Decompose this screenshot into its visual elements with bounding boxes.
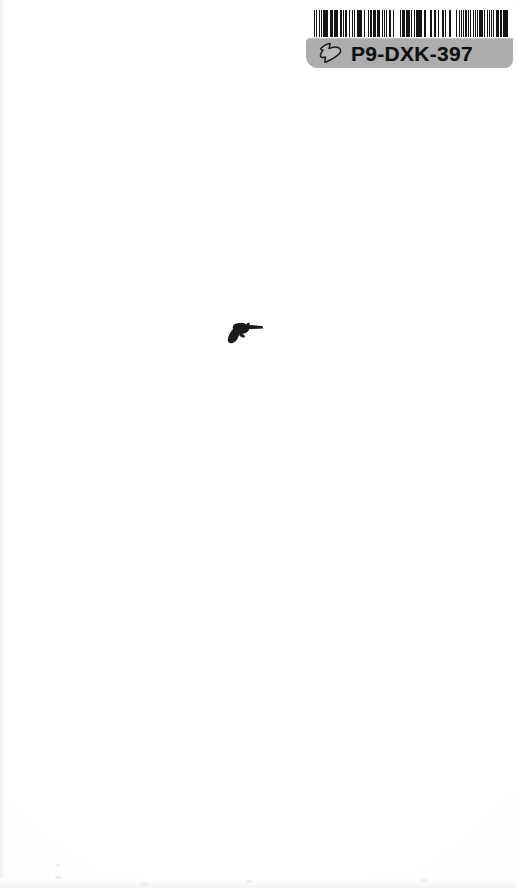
revolver-shape xyxy=(228,323,263,344)
revolver-silhouette xyxy=(222,316,266,352)
scan-speckle xyxy=(246,880,253,883)
scan-speckle xyxy=(56,864,60,867)
barcode-strip xyxy=(314,10,510,37)
label-plate: P9-DXK-397 xyxy=(306,38,513,68)
scanned-page: P9-DXK-397 xyxy=(0,0,516,888)
scan-speckle xyxy=(420,879,428,882)
paper-texture xyxy=(0,0,516,888)
pointing-hand-icon xyxy=(319,42,343,64)
scan-edge-left xyxy=(0,0,7,888)
barcode-label[interactable]: P9-DXK-397 xyxy=(306,10,513,68)
barcode-code-text: P9-DXK-397 xyxy=(351,43,473,64)
scan-speckle xyxy=(55,876,61,879)
barcode-space xyxy=(508,10,509,37)
scan-speckle xyxy=(140,882,149,886)
scan-edge-bottom xyxy=(0,878,516,888)
